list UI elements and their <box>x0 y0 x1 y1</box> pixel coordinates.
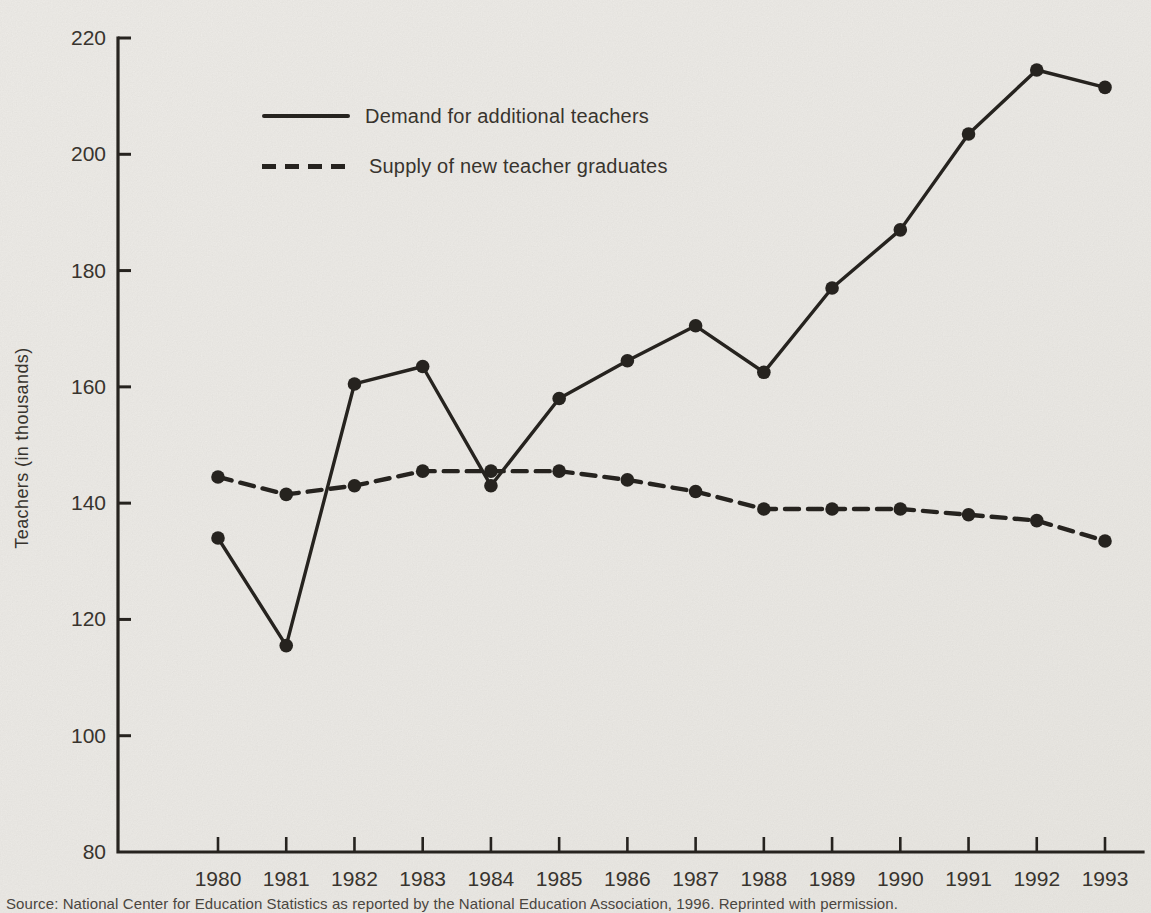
dashed-line-swatch-icon <box>262 164 354 169</box>
point-demand-1985 <box>552 392 566 406</box>
point-demand-1982 <box>348 377 362 391</box>
point-demand-1991 <box>962 127 976 141</box>
legend-item-supply: Supply of new teacher graduates <box>262 154 668 178</box>
y-axis-title: Teachers (in thousands) <box>12 347 33 548</box>
point-supply-1986 <box>621 473 635 487</box>
legend-label-supply: Supply of new teacher graduates <box>369 155 668 178</box>
point-demand-1992 <box>1030 63 1044 77</box>
point-demand-1983 <box>416 360 430 374</box>
x-tick-label-1990: 1990 <box>877 867 924 890</box>
point-supply-1980 <box>211 470 225 484</box>
x-tick-label-1989: 1989 <box>809 867 856 890</box>
y-tick-label-100: 100 <box>71 724 106 747</box>
point-supply-1988 <box>757 502 771 516</box>
x-tick-label-1986: 1986 <box>604 867 651 890</box>
point-supply-1985 <box>552 464 566 478</box>
point-demand-1989 <box>825 281 839 295</box>
x-tick-label-1993: 1993 <box>1082 867 1129 890</box>
x-tick-label-1992: 1992 <box>1013 867 1060 890</box>
y-tick-label-80: 80 <box>83 840 106 863</box>
x-tick-label-1981: 1981 <box>263 867 310 890</box>
legend-item-demand: Demand for additional teachers <box>262 104 668 128</box>
x-tick-label-1983: 1983 <box>399 867 446 890</box>
point-demand-1988 <box>757 366 771 380</box>
x-tick-label-1984: 1984 <box>468 867 515 890</box>
point-supply-1993 <box>1098 534 1112 548</box>
point-supply-1981 <box>279 488 293 502</box>
x-tick-label-1987: 1987 <box>672 867 719 890</box>
point-supply-1987 <box>689 485 703 499</box>
scanned-chart-page: 8010012014016018020022019801981198219831… <box>0 0 1151 913</box>
point-supply-1990 <box>894 502 908 516</box>
y-tick-label-140: 140 <box>71 491 106 514</box>
y-tick-label-220: 220 <box>71 26 106 49</box>
point-demand-1986 <box>621 354 635 368</box>
point-supply-1992 <box>1030 514 1044 528</box>
y-tick-label-180: 180 <box>71 259 106 282</box>
point-supply-1989 <box>825 502 839 516</box>
chart-legend: Demand for additional teachers Supply of… <box>262 104 668 178</box>
solid-line-swatch-icon <box>262 114 350 118</box>
point-supply-1983 <box>416 464 430 478</box>
point-demand-1987 <box>689 319 703 333</box>
x-tick-label-1991: 1991 <box>945 867 992 890</box>
y-tick-label-120: 120 <box>71 607 106 630</box>
y-tick-label-200: 200 <box>71 142 106 165</box>
point-supply-1991 <box>962 508 976 522</box>
x-tick-label-1988: 1988 <box>740 867 787 890</box>
y-tick-label-160: 160 <box>71 375 106 398</box>
source-caption: Source: National Center for Education St… <box>6 895 898 912</box>
point-supply-1982 <box>348 479 362 493</box>
point-demand-1993 <box>1098 81 1112 95</box>
x-tick-label-1980: 1980 <box>195 867 242 890</box>
point-demand-1980 <box>211 531 225 545</box>
point-demand-1990 <box>894 223 908 237</box>
x-tick-label-1985: 1985 <box>536 867 583 890</box>
x-tick-label-1982: 1982 <box>331 867 378 890</box>
point-demand-1984 <box>484 479 498 493</box>
point-demand-1981 <box>279 639 293 653</box>
legend-label-demand: Demand for additional teachers <box>365 105 649 128</box>
